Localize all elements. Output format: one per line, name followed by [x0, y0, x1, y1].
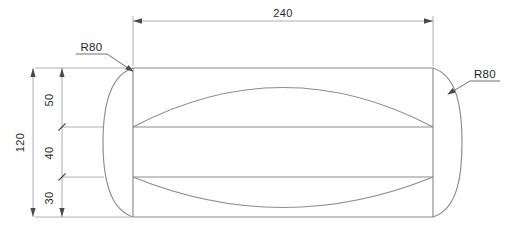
arrowhead-left-240 — [133, 18, 142, 23]
cad-drawing-svg: 240 120 50 — [0, 0, 517, 233]
technical-drawing-canvas: 240 120 50 — [0, 0, 517, 233]
part-geometry — [103, 68, 462, 217]
arrowhead-bottom-chain — [59, 208, 64, 217]
main-rectangle-outline — [133, 68, 433, 217]
dimension-label-240: 240 — [273, 7, 293, 19]
arrowhead-right-240 — [424, 18, 433, 23]
upper-convex-arc — [133, 88, 433, 128]
arrowhead-bottom-120 — [30, 208, 35, 217]
right-radius-arc — [433, 68, 462, 217]
dimension-label-40: 40 — [43, 146, 55, 159]
arrowhead-top-120 — [30, 68, 35, 77]
radius-label-right: R80 — [474, 68, 496, 80]
left-radius-arc — [103, 68, 133, 217]
dimension-chain-segments: 50 40 30 — [35, 68, 131, 217]
leader-radius-left: R80 — [76, 41, 134, 72]
dimension-overall-height: 120 — [14, 68, 36, 217]
dimension-label-120: 120 — [14, 133, 26, 153]
lower-concave-arc — [133, 177, 433, 208]
dimension-label-30: 30 — [43, 191, 55, 204]
dimension-label-50: 50 — [43, 93, 55, 106]
dimension-overall-width: 240 — [133, 7, 433, 66]
radius-label-left: R80 — [81, 41, 103, 53]
arrowhead-top-chain — [59, 68, 64, 77]
